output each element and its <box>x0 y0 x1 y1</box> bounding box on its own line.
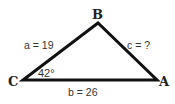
vertex-label-b: B <box>92 7 103 22</box>
side-label-c: c = ? <box>127 39 150 51</box>
triangle-diagram: B C A a = 19 c = ? b = 26 42° <box>0 0 175 104</box>
vertex-label-a: A <box>158 74 170 89</box>
vertex-label-c: C <box>8 74 18 89</box>
side-label-b: b = 26 <box>68 86 98 98</box>
side-label-a: a = 19 <box>24 39 54 51</box>
angle-label-c: 42° <box>38 67 55 79</box>
